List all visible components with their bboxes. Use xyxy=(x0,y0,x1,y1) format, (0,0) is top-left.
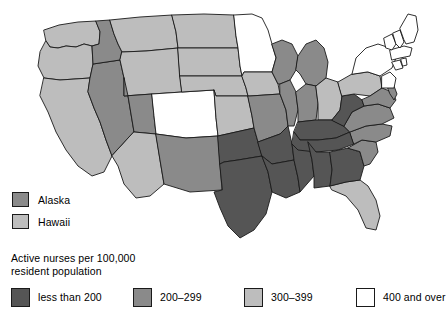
alaska-swatch xyxy=(12,192,29,207)
state-wi: Wisconsin — 200-299 xyxy=(272,40,298,84)
map-legend: Active nurses per 100,000 resident popul… xyxy=(11,252,411,308)
state-or: Oregon — 300-399 xyxy=(38,41,93,80)
legend-label-0: less than 200 xyxy=(38,291,102,303)
state-sd: South Dakota — 300-399 xyxy=(178,48,242,76)
legend-swatch-0 xyxy=(11,288,30,307)
hawaii-label: Hawaii xyxy=(38,216,70,228)
inset-legend-row-hawaii: Hawaii xyxy=(12,212,132,231)
state-in: Indiana — 200-299 xyxy=(296,84,318,122)
state-mt: Montana — 300-399 xyxy=(110,15,178,52)
hawaii-swatch xyxy=(12,214,29,229)
legend-label-2: 300–399 xyxy=(271,291,313,303)
state-wy: Wyoming — 300-399 xyxy=(120,48,182,96)
legend-title: Active nurses per 100,000 resident popul… xyxy=(11,252,411,278)
legend-class-1: 200–299 xyxy=(133,286,202,308)
state-tx: Texas — less than 200 xyxy=(214,156,272,238)
legend-class-2: 300–399 xyxy=(244,286,313,308)
state-mn: Minnesota — 400 and over xyxy=(234,14,276,76)
legend-swatch-3 xyxy=(356,288,375,307)
legend-swatch-1 xyxy=(133,288,152,307)
inset-legend-row-alaska: Alaska xyxy=(12,190,132,209)
state-nm: New Mexico — 200-299 xyxy=(156,134,222,192)
state-mi: Michigan — 200-299 xyxy=(296,40,328,86)
legend-label-1: 200–299 xyxy=(160,291,202,303)
legend-swatch-2 xyxy=(244,288,263,307)
alaska-label: Alaska xyxy=(38,194,70,206)
state-wa: Washington — 300-399 xyxy=(44,21,100,48)
legend-label-3: 400 and over xyxy=(383,291,446,303)
inset-legend: Alaska Hawaii xyxy=(12,190,132,234)
state-nj: New Jersey — 400 and over xyxy=(382,72,396,88)
legend-class-0: less than 200 xyxy=(11,286,102,308)
legend-class-list: less than 200200–299300–399400 and over xyxy=(11,286,411,308)
state-co: Colorado — 400 and over xyxy=(152,90,218,138)
state-ga: Georgia — less than 200 xyxy=(330,148,364,186)
state-fl: Florida — 300-399 xyxy=(330,180,380,230)
state-nd: North Dakota — 300-399 xyxy=(172,14,238,48)
legend-class-3: 400 and over xyxy=(356,286,446,308)
